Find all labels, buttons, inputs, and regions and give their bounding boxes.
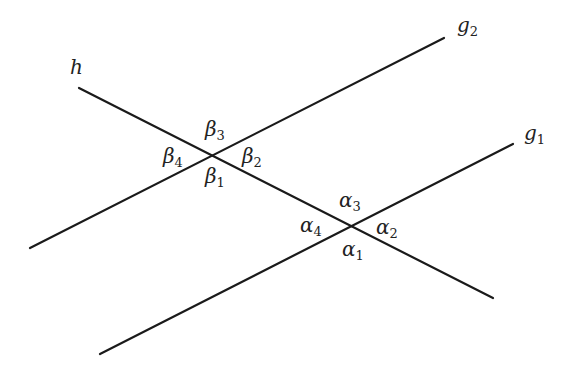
angle-beta-2: β2 bbox=[241, 144, 262, 170]
angle-alpha-4: α4 bbox=[300, 213, 322, 239]
label-g2: g2 bbox=[457, 13, 478, 39]
angle-beta-1: β1 bbox=[204, 164, 225, 190]
label-g1: g1 bbox=[524, 121, 545, 147]
line-g1 bbox=[100, 144, 513, 354]
label-h: h bbox=[70, 55, 83, 79]
angle-alpha-3: α3 bbox=[339, 188, 361, 214]
angle-beta-3: β3 bbox=[204, 117, 225, 143]
parallel-lines-diagram: h g2 g1 β3 β4 β2 β1 α3 α4 α2 α1 bbox=[0, 0, 564, 374]
angle-alpha-2: α2 bbox=[376, 215, 398, 241]
angle-beta-4: β4 bbox=[162, 144, 183, 170]
line-h bbox=[79, 88, 493, 298]
angle-alpha-1: α1 bbox=[342, 237, 364, 263]
